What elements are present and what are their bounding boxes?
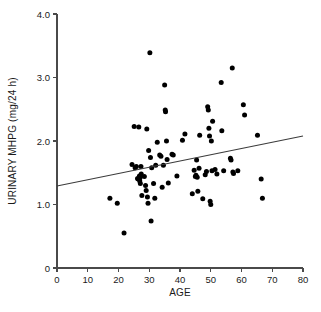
x-tick-label-30: 30 (144, 274, 155, 285)
data-point (231, 171, 236, 176)
data-point (260, 196, 265, 201)
x-tick-label-20: 20 (113, 274, 124, 285)
data-point (208, 202, 213, 207)
y-tick-label-3.0: 3.0 (37, 72, 50, 83)
data-point (221, 168, 226, 173)
data-point (190, 191, 195, 196)
data-point (151, 181, 156, 186)
data-point (136, 125, 141, 130)
data-point (197, 133, 202, 138)
data-point (134, 164, 139, 169)
x-tick-label-50: 50 (205, 274, 216, 285)
data-point (107, 196, 112, 201)
data-point (229, 158, 234, 163)
data-point (142, 174, 147, 179)
plot-canvas: 01.02.03.04.0 01020304050607080 AGE URIN… (0, 0, 321, 312)
data-point (144, 188, 149, 193)
data-point (195, 189, 200, 194)
data-point (206, 126, 211, 131)
data-point (132, 124, 137, 129)
data-point (241, 102, 246, 107)
data-point (210, 119, 215, 124)
data-point (145, 194, 150, 199)
data-point (207, 133, 212, 138)
data-point (139, 193, 144, 198)
y-axis-title: URINARY MHPG (mg/24 h) (7, 77, 18, 204)
data-point (163, 109, 168, 114)
data-point (197, 166, 202, 171)
data-point (214, 172, 219, 177)
y-tick-label-2.0: 2.0 (37, 136, 50, 147)
x-tick-label-40: 40 (175, 274, 186, 285)
data-point (204, 169, 209, 174)
y-tick-label-4.0: 4.0 (37, 9, 50, 20)
x-tick-label-70: 70 (267, 274, 278, 285)
data-point (235, 168, 240, 173)
data-point (165, 157, 170, 162)
data-point (149, 219, 154, 224)
x-axis-title: AGE (169, 287, 191, 298)
y-tick-label-0: 0 (45, 263, 50, 274)
x-tick-label-0: 0 (54, 274, 59, 285)
data-point (164, 139, 169, 144)
data-point (180, 138, 185, 143)
data-point (147, 50, 152, 55)
data-point (195, 175, 200, 180)
x-tick-label-80: 80 (298, 274, 309, 285)
data-point (259, 177, 264, 182)
data-point (122, 231, 127, 236)
x-tick-labels: 01020304050607080 (54, 274, 308, 285)
data-point (143, 183, 148, 188)
data-point (146, 148, 151, 153)
y-axis-group: 01.02.03.04.0 (37, 9, 57, 274)
data-points-group (107, 50, 265, 235)
data-point (171, 152, 176, 157)
data-point (200, 196, 205, 201)
data-point (148, 155, 153, 160)
x-tick-label-10: 10 (82, 274, 93, 285)
data-point (255, 133, 260, 138)
data-point (209, 139, 214, 144)
data-point (162, 83, 167, 88)
data-point (182, 132, 187, 137)
data-point (160, 185, 165, 190)
data-point (144, 126, 149, 131)
y-tick-label-1.0: 1.0 (37, 199, 50, 210)
data-point (146, 201, 151, 206)
data-point (158, 154, 163, 159)
data-point (138, 181, 143, 186)
data-point (166, 180, 171, 185)
data-point (230, 65, 235, 70)
y-tick-marks (53, 14, 57, 268)
data-point (219, 80, 224, 85)
x-axis-group: 01020304050607080 (54, 268, 308, 285)
data-point (242, 112, 247, 117)
scatter-plot-figure: 01.02.03.04.0 01020304050607080 AGE URIN… (0, 0, 321, 312)
y-tick-labels: 01.02.03.04.0 (37, 9, 50, 274)
data-point (206, 107, 211, 112)
data-point (174, 173, 179, 178)
data-point (152, 196, 157, 201)
data-point (213, 167, 218, 172)
data-point (115, 201, 120, 206)
data-point (155, 140, 160, 145)
data-point (192, 168, 197, 173)
data-point (219, 128, 224, 133)
x-tick-marks (57, 268, 303, 272)
x-tick-label-60: 60 (236, 274, 247, 285)
regression-line (57, 136, 303, 186)
